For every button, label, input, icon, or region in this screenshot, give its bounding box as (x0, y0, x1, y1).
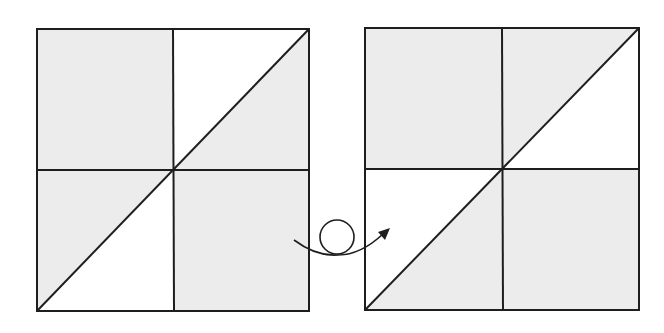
diagram-canvas (0, 0, 664, 333)
arrow-head (378, 228, 390, 240)
arrow-loop (320, 220, 354, 254)
right-quadrant-bottom-right (502, 169, 639, 310)
left-square (37, 29, 309, 311)
right-square (365, 28, 639, 310)
left-quadrant-bottom-right (173, 170, 309, 311)
right-quadrant-top-left (365, 28, 502, 169)
left-quadrant-top-left (37, 29, 173, 170)
